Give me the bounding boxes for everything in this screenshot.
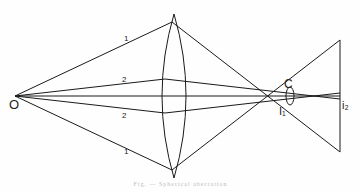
ray-1-upper-label: 1	[124, 35, 128, 43]
ray-diagram	[0, 0, 361, 191]
object-point-label: O	[9, 98, 19, 111]
ray-1-upper-in	[15, 22, 172, 96]
diagram-canvas: O 1 1 2 2 C I₁ i₂ Fig. — Spherical aberr…	[0, 0, 361, 191]
ray-2-upper-label: 2	[122, 76, 126, 84]
ray-1-lower-label: 1	[124, 148, 128, 156]
circle-label: C	[284, 78, 293, 90]
ray-2-lower-in	[15, 96, 165, 113]
figure-caption: Fig. — Spherical aberration	[0, 181, 361, 187]
ray-2-lower-label: 2	[122, 112, 126, 120]
ray-1-lower-in	[15, 96, 172, 170]
ray-2-upper-in	[15, 79, 165, 96]
image-marginal-label: I₁	[279, 106, 286, 117]
ray-1-lower-out	[172, 40, 340, 170]
image-paraxial-label: i₂	[342, 100, 349, 111]
ray-1-upper-out	[172, 22, 340, 152]
